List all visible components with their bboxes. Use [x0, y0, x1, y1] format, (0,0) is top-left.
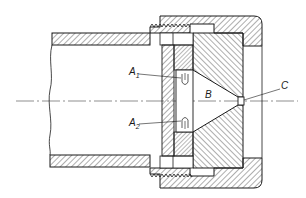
- break-line: [49, 45, 52, 155]
- pipe-bottom-wall: [50, 155, 150, 167]
- leader-a2: [139, 121, 181, 124]
- leader-a1: [139, 74, 181, 78]
- pipe-top-wall: [52, 33, 150, 45]
- label-a1-sub: 1: [136, 72, 140, 79]
- label-b: B: [205, 90, 212, 100]
- inner-sleeve: [160, 33, 193, 168]
- label-a2: A2: [129, 118, 140, 130]
- label-c: C: [281, 81, 288, 91]
- label-a1-main: A: [129, 66, 136, 77]
- nozzle-block-b: [193, 33, 244, 168]
- cross-section-drawing: [0, 0, 306, 198]
- label-a2-main: A: [129, 117, 136, 128]
- label-a1: A1: [129, 67, 140, 79]
- orifice-c: [238, 97, 244, 105]
- label-a2-sub: 2: [136, 123, 140, 130]
